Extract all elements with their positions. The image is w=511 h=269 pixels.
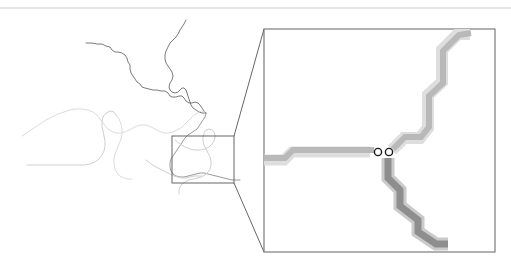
figure-root: [0, 0, 511, 269]
junction-node-right[interactable]: [385, 148, 392, 155]
detail-panel-border: [264, 29, 495, 252]
figure-canvas: [0, 0, 511, 269]
junction-node-left[interactable]: [374, 148, 381, 155]
detail-panel[interactable]: [264, 29, 495, 252]
